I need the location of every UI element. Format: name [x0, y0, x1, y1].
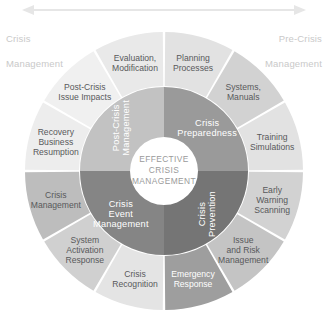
center-hub: EFFECTIVECRISISMANAGEMENT [131, 138, 197, 204]
outer-label-systems-manuals: Systems,Manuals [226, 82, 261, 102]
outer-label-recovery-business-resumption: RecoveryBusinessResumption [33, 127, 79, 157]
inner-label-post-crisis-management: Post-CrisisManagement [111, 100, 131, 156]
outer-label-emergency-response: EmergencyResponse [171, 269, 215, 289]
outer-label-evaluation-modification: Evaluation,Modification [112, 53, 158, 73]
wheel-svg: PlanningProcessesSystems,ManualsTraining… [0, 0, 328, 311]
outer-label-planning-processes: PlanningProcesses [173, 53, 213, 73]
outer-label-system-activation-response: SystemActivationResponse [65, 235, 104, 265]
crisis-management-wheel-diagram: Crisis Management Pre-Crisis Management … [0, 0, 328, 311]
outer-label-post-crisis-issue-impacts: Post-CrisisIssue Impacts [58, 82, 111, 102]
double-headed-arrow-icon [22, 5, 306, 15]
